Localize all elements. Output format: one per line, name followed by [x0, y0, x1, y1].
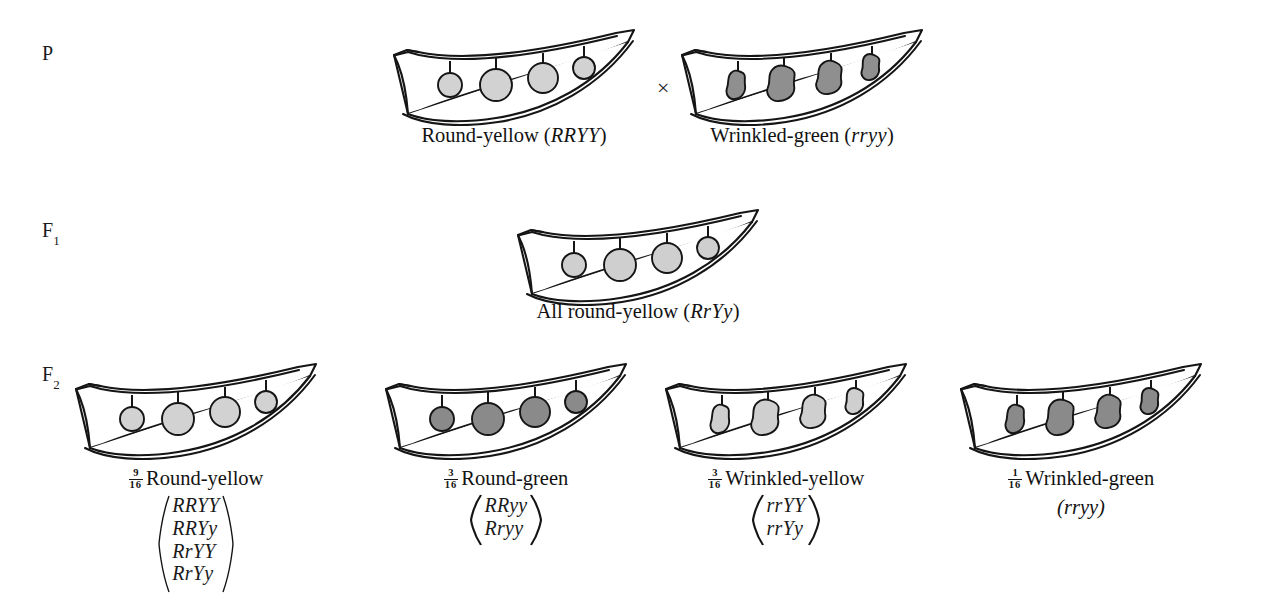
fraction-denominator: 16: [1008, 479, 1023, 491]
genotype-text: rrYY: [766, 494, 805, 517]
pod-illustration: [388, 28, 640, 126]
paren-left-icon: [751, 494, 764, 546]
pea-wrinkled: [861, 54, 879, 80]
genotype-text: Rryy: [484, 517, 527, 540]
fraction-denominator: 16: [444, 479, 459, 491]
pea-round: [480, 69, 512, 101]
genotype-text: RRYy: [172, 517, 220, 540]
pod-round-yellow-parent: [388, 28, 640, 126]
pea-round: [120, 407, 144, 431]
generation-label-f1-sub: 1: [53, 233, 60, 248]
fraction-denominator: 16: [708, 479, 723, 491]
genotype-text: RrYy: [690, 300, 733, 322]
pea-wrinkled: [726, 71, 745, 100]
pod-f1-round-yellow: [512, 208, 764, 306]
genotype-text: RrYY: [172, 540, 220, 563]
fraction-1-16: 1 16: [1008, 468, 1023, 490]
generation-label-f1: F1: [42, 219, 60, 242]
pod-f2-wrinkled-yellow: [660, 362, 912, 460]
genotype-text: RRYY: [172, 494, 220, 517]
pea-round: [255, 391, 277, 413]
pea-wrinkled: [1046, 399, 1073, 435]
pod-illustration: [676, 28, 928, 126]
pod-f2-round-green: [380, 362, 632, 460]
genotype-text: RrYy: [172, 562, 220, 585]
pea-round: [562, 253, 586, 277]
generation-label-f2-text: F: [42, 363, 53, 385]
pea-wrinkled: [1140, 388, 1158, 414]
fraction-numerator: 9: [129, 468, 144, 479]
pea-wrinkled: [1095, 394, 1120, 428]
pea-round: [472, 403, 504, 435]
pea-wrinkled: [767, 65, 794, 101]
generation-label-f1-text: F: [42, 219, 53, 241]
pod-wrinkled-green-parent: [676, 28, 928, 126]
caption-wrinkled-green-parent: Wrinkled-green (rryy): [676, 124, 928, 148]
genotype-rows: rrYY rrYy: [764, 494, 807, 546]
caption-prefix: Wrinkled-green (: [710, 124, 851, 146]
paren-right-icon: [808, 494, 821, 546]
fraction-numerator: 3: [444, 468, 459, 479]
pea-round: [162, 403, 194, 435]
pea-round: [565, 391, 587, 413]
genotype-text: RRyy: [484, 494, 527, 517]
generation-label-p-text: P: [42, 42, 53, 64]
paren-left-icon: [469, 494, 482, 546]
genotype-group-f2-round-green: RRyy Rryy: [380, 494, 632, 546]
caption-suffix: ): [600, 124, 607, 146]
pea-round: [604, 249, 636, 281]
genotype-text: rrYy: [766, 517, 805, 540]
pea-wrinkled: [710, 405, 729, 434]
paren-left-icon: [157, 494, 170, 594]
genotype-rows: RRYY RRYy RrYY RrYy: [170, 494, 222, 594]
pea-round: [438, 73, 462, 97]
pod-f2-wrinkled-green: [955, 362, 1207, 460]
pea-wrinkled: [751, 399, 778, 435]
pea-round: [528, 63, 558, 93]
caption-round-yellow-parent: Round-yellow (RRYY): [388, 124, 640, 148]
generation-label-p: P: [42, 42, 53, 65]
phenotype-text: Round-yellow: [146, 467, 263, 489]
pea-wrinkled: [845, 388, 863, 414]
caption-f2-wrinkled-green: 1 16 Wrinkled-green: [955, 467, 1207, 492]
pod-illustration: [955, 362, 1207, 460]
generation-label-f2: F2: [42, 363, 60, 386]
pod-f2-round-yellow: [70, 362, 322, 460]
phenotype-text: Wrinkled-yellow: [725, 467, 864, 489]
genotype-text: RRYY: [551, 124, 600, 146]
caption-prefix: All round-yellow (: [536, 300, 690, 322]
caption-suffix: ): [733, 300, 740, 322]
pod-illustration: [380, 362, 632, 460]
caption-f1: All round-yellow (RrYy): [500, 300, 776, 324]
fraction-numerator: 3: [708, 468, 723, 479]
fraction-denominator: 16: [129, 479, 144, 491]
fraction-numerator: 1: [1008, 468, 1023, 479]
genotype-group-f2-round-yellow: RRYY RRYy RrYY RrYy: [70, 494, 322, 594]
pea-round: [430, 407, 454, 431]
pod-illustration: [512, 208, 764, 306]
caption-f2-round-green: 3 16 Round-green: [380, 467, 632, 492]
pea-round: [697, 237, 719, 259]
caption-prefix: Round-yellow (: [421, 124, 550, 146]
fraction-9-16: 9 16: [129, 468, 144, 490]
generation-label-f2-sub: 2: [53, 377, 60, 392]
cross-symbol: ×: [657, 75, 669, 101]
caption-f2-wrinkled-yellow: 3 16 Wrinkled-yellow: [660, 467, 912, 492]
pea-round: [520, 397, 550, 427]
pea-wrinkled: [816, 60, 841, 94]
caption-suffix: ): [887, 124, 894, 146]
fraction-3-16: 3 16: [708, 468, 723, 490]
phenotype-text: Round-green: [461, 467, 568, 489]
pea-wrinkled: [1005, 405, 1024, 434]
pea-round: [652, 243, 682, 273]
genotype-rows: RRyy Rryy: [482, 494, 529, 546]
genotype-text: rryy: [1064, 496, 1098, 518]
paren-right-icon: [222, 494, 235, 594]
genotype-group-f2-wrinkled-green: (rryy): [955, 496, 1207, 520]
pea-wrinkled: [800, 394, 825, 428]
pod-illustration: [660, 362, 912, 460]
genotype-text: rryy: [851, 124, 887, 146]
fraction-3-16: 3 16: [444, 468, 459, 490]
genotype-group-f2-wrinkled-yellow: rrYY rrYy: [660, 494, 912, 546]
caption-f2-round-yellow: 9 16 Round-yellow: [70, 467, 322, 492]
